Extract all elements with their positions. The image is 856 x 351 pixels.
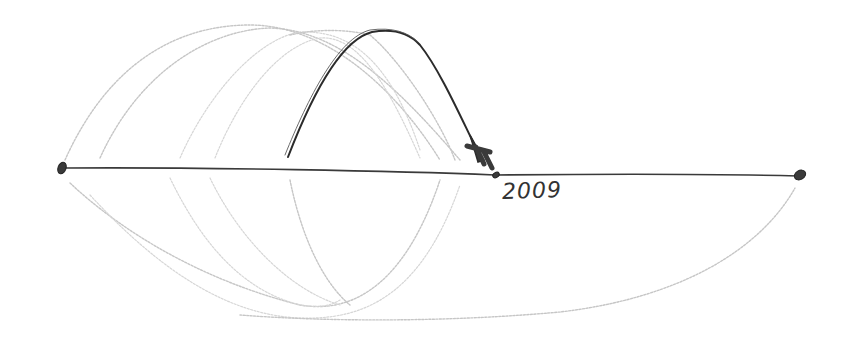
faint-arcs-below xyxy=(70,178,795,320)
arrowhead-icon xyxy=(467,135,492,168)
timeline-start-dot xyxy=(56,161,68,175)
arc-path xyxy=(288,31,476,157)
highlighted-arc xyxy=(285,29,492,168)
faint-arc-above xyxy=(215,38,420,158)
timeline-marker-dot xyxy=(492,171,501,179)
faint-arc-above xyxy=(100,28,460,160)
faint-arcs-above xyxy=(65,25,460,160)
faint-arc-below xyxy=(240,188,795,320)
timeline-marker-label: 2009 xyxy=(502,177,563,204)
faint-arc-below xyxy=(210,178,340,305)
faint-arc-below xyxy=(290,180,350,305)
faint-arc-above xyxy=(180,32,420,158)
timeline-sketch xyxy=(0,0,856,351)
faint-arc-above xyxy=(65,25,440,160)
faint-arc-below xyxy=(90,185,460,318)
timeline-line xyxy=(64,168,798,176)
timeline-end-dot xyxy=(793,168,808,182)
faint-arc-below xyxy=(70,180,440,307)
faint-arc-below xyxy=(170,178,340,306)
